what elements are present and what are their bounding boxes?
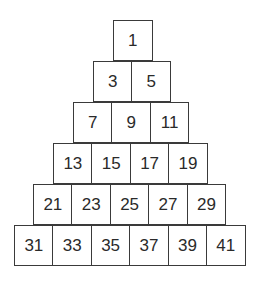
pyramid-row-2: 3 5	[93, 61, 171, 102]
pyramid-cell: 21	[33, 184, 73, 225]
pyramid-cell: 27	[148, 184, 188, 225]
pyramid-cell: 17	[130, 143, 170, 184]
pyramid-cell: 29	[187, 184, 227, 225]
pyramid-cell: 15	[91, 143, 131, 184]
pyramid-cell: 37	[129, 225, 169, 266]
pyramid-cell: 41	[206, 225, 246, 266]
pyramid-cell: 35	[91, 225, 131, 266]
pyramid-row-5: 21 23 25 27 29	[33, 184, 226, 225]
pyramid-cell: 7	[73, 102, 113, 143]
pyramid-cell: 39	[168, 225, 208, 266]
pyramid-cell: 3	[93, 61, 133, 102]
pyramid-cell: 5	[131, 61, 171, 102]
pyramid-row-3: 7 9 11	[73, 102, 189, 143]
pyramid-cell: 19	[168, 143, 208, 184]
pyramid-cell: 33	[52, 225, 92, 266]
pyramid-cell: 13	[53, 143, 93, 184]
pyramid-cell: 25	[110, 184, 150, 225]
pyramid-row-4: 13 15 17 19	[53, 143, 208, 184]
pyramid-cell: 9	[111, 102, 151, 143]
pyramid-row-1: 1	[113, 20, 153, 61]
pyramid-cell: 31	[14, 225, 54, 266]
pyramid-cell: 1	[113, 20, 153, 61]
pyramid-cell: 11	[150, 102, 190, 143]
pyramid-cell: 23	[71, 184, 111, 225]
odd-number-pyramid: 1 3 5 7 9 11 13 15 17 19 21 23 25 27 29 …	[0, 0, 268, 283]
pyramid-row-6: 31 33 35 37 39 41	[14, 225, 246, 266]
